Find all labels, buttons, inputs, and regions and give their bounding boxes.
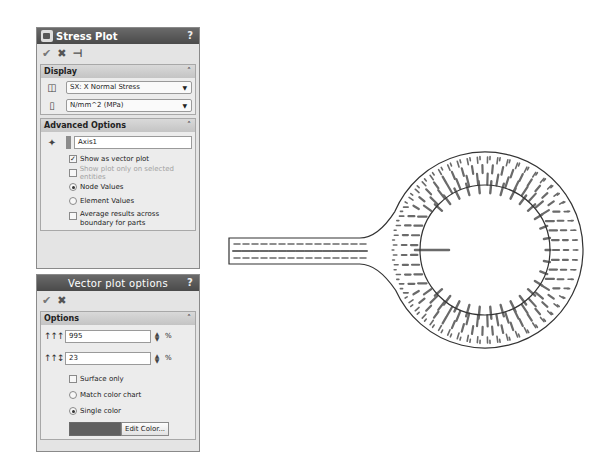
vector-stress-plot-canvas xyxy=(0,0,615,473)
stress-vector-arrows xyxy=(233,157,578,344)
